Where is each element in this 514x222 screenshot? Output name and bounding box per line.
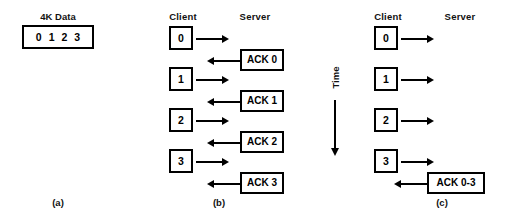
- arrow-head: [207, 57, 214, 65]
- arrow-head: [222, 76, 229, 84]
- data-segment-0: 0: [36, 32, 42, 43]
- time-arrow-down: [327, 100, 343, 156]
- client-segment-box: 2: [374, 108, 398, 132]
- panel-b: Client Server 0 ACK 0 1 ACK 1 2: [150, 0, 310, 222]
- client-segment-box: 0: [169, 26, 193, 50]
- arrow-head: [207, 139, 214, 147]
- arrow-shaft: [401, 38, 427, 40]
- arrow-head: [331, 148, 339, 156]
- data-arrow-right: [196, 157, 229, 166]
- data-arrow-right: [401, 34, 434, 43]
- server-cumulative-ack-box: ACK 0-3: [427, 172, 485, 194]
- arrow-shaft: [401, 161, 427, 163]
- data-segment-2: 2: [62, 32, 68, 43]
- arrow-shaft: [401, 79, 427, 81]
- ack-arrow-left: [394, 179, 427, 188]
- time-axis: Time: [320, 60, 350, 160]
- arrow-head: [207, 180, 214, 188]
- ack-arrow-left: [207, 56, 240, 65]
- arrow-shaft: [196, 38, 222, 40]
- arrow-head: [222, 35, 229, 43]
- column-header-client-b: Client: [158, 11, 208, 22]
- arrow-shaft: [196, 79, 222, 81]
- ack-arrow-left: [207, 138, 240, 147]
- arrow-shaft: [401, 120, 427, 122]
- panel-a: 4K Data 0 1 2 3 (a): [0, 0, 150, 222]
- data-arrow-right: [401, 116, 434, 125]
- arrow-shaft: [214, 183, 240, 185]
- time-axis-label: Time: [330, 59, 341, 97]
- server-ack-box: ACK 0: [240, 49, 284, 71]
- arrow-shaft: [214, 142, 240, 144]
- data-segment-1: 1: [49, 32, 55, 43]
- data-arrow-right: [401, 157, 434, 166]
- client-segment-box: 3: [169, 149, 193, 173]
- arrow-head: [222, 158, 229, 166]
- arrow-shaft: [401, 183, 427, 185]
- acknowledgement-strategies-figure: 4K Data 0 1 2 3 (a) Client Server 0 ACK …: [0, 0, 514, 222]
- data-segment-3: 3: [74, 32, 80, 43]
- arrow-head: [427, 76, 434, 84]
- column-header-server-c: Server: [433, 11, 487, 22]
- client-segment-box: 0: [374, 26, 398, 50]
- panel-label-b: (b): [194, 197, 244, 208]
- server-ack-box: ACK 2: [240, 131, 284, 153]
- panel-c: Client Server 0 1 2 3 ACK: [355, 0, 514, 222]
- client-segment-box: 3: [374, 149, 398, 173]
- arrow-head: [207, 98, 214, 106]
- arrow-shaft: [214, 60, 240, 62]
- data-block-label: 4K Data: [22, 11, 94, 22]
- arrow-head: [222, 117, 229, 125]
- arrow-shaft: [214, 101, 240, 103]
- ack-arrow-left: [207, 97, 240, 106]
- arrow-shaft: [196, 161, 222, 163]
- column-header-server-b: Server: [228, 11, 282, 22]
- arrow-head: [427, 117, 434, 125]
- server-ack-box: ACK 3: [240, 172, 284, 194]
- arrow-shaft: [334, 100, 336, 148]
- client-segment-box: 1: [169, 67, 193, 91]
- ack-arrow-left: [207, 179, 240, 188]
- client-segment-box: 2: [169, 108, 193, 132]
- arrow-head: [427, 35, 434, 43]
- column-header-client-c: Client: [363, 11, 413, 22]
- panel-label-a: (a): [33, 197, 83, 208]
- data-arrow-right: [401, 75, 434, 84]
- arrow-head: [394, 180, 401, 188]
- panel-label-c: (c): [417, 197, 467, 208]
- data-arrow-right: [196, 75, 229, 84]
- arrow-shaft: [196, 120, 222, 122]
- data-block-box: 0 1 2 3: [22, 25, 94, 49]
- server-ack-box: ACK 1: [240, 90, 284, 112]
- arrow-head: [427, 158, 434, 166]
- client-segment-box: 1: [374, 67, 398, 91]
- data-arrow-right: [196, 34, 229, 43]
- data-arrow-right: [196, 116, 229, 125]
